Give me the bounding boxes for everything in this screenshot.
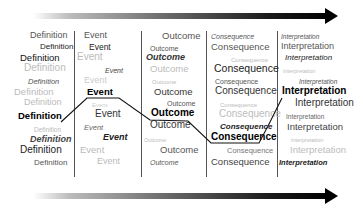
arrow-head-icon — [325, 188, 338, 204]
arrow-shaft — [33, 193, 328, 199]
highlight-path-line — [61, 98, 282, 143]
bottom-progress-arrow — [33, 193, 338, 199]
connecting-path — [0, 0, 363, 212]
